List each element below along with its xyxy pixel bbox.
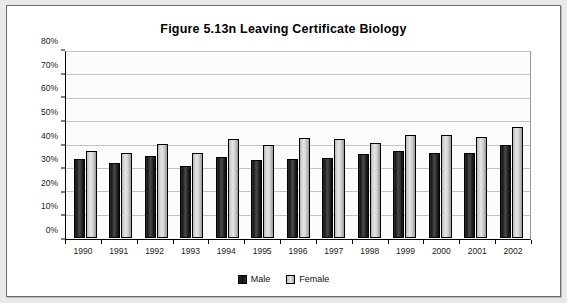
bars-layer (68, 53, 530, 238)
bar-male-1990 (74, 159, 85, 237)
y-axis-tick-mark (61, 97, 65, 98)
bar-female-1991 (121, 153, 132, 237)
x-axis-tick-mark (173, 240, 174, 244)
bar-male-1997 (322, 158, 333, 238)
x-axis-label-2000: 2000 (423, 246, 459, 256)
x-axis-tick-mark (101, 240, 102, 244)
bar-female-1999 (405, 135, 416, 238)
y-axis-tick-label: 30% (41, 154, 58, 164)
bar-male-1993 (180, 166, 191, 237)
x-axis-tick-mark (388, 240, 389, 244)
x-axis-label-1991: 1991 (101, 246, 137, 256)
bar-male-1999 (393, 151, 404, 237)
legend-swatch-female-icon (286, 275, 295, 284)
y-axis-tick-label: 50% (41, 107, 58, 117)
bar-female-1998 (370, 143, 381, 238)
y-axis-tick-label: 70% (41, 60, 58, 70)
x-axis-tick-mark (280, 240, 281, 244)
x-axis-tick-mark (208, 240, 209, 244)
x-axis-label-2002: 2002 (495, 246, 531, 256)
y-axis-tick-label: 0% (46, 225, 58, 235)
bar-female-1993 (192, 153, 203, 237)
bar-female-2002 (512, 127, 523, 238)
x-axis-tick-mark (423, 240, 424, 244)
x-axis-tick-mark (65, 240, 66, 244)
y-axis-tick-mark (61, 50, 65, 51)
bar-group-2002 (494, 53, 530, 238)
y-axis-tick-mark (61, 73, 65, 74)
bar-group-1993 (174, 53, 210, 238)
bar-female-1995 (263, 145, 274, 237)
plot-wrapper: 0%10%20%30%40%50%60%70%80% 1990199119921… (65, 51, 531, 240)
bar-male-2002 (500, 145, 511, 237)
bar-male-1996 (287, 159, 298, 237)
y-axis-tick-mark (61, 168, 65, 169)
x-axis-label-1996: 1996 (280, 246, 316, 256)
y-axis-tick-label: 60% (41, 83, 58, 93)
bar-male-1991 (109, 163, 120, 238)
bar-group-1997 (316, 53, 352, 238)
legend-swatch-male-icon (238, 275, 247, 284)
legend-label-female: Female (299, 274, 329, 284)
x-axis-tick-mark (459, 240, 460, 244)
bar-female-1992 (157, 144, 168, 237)
bar-female-2001 (476, 137, 487, 237)
bar-female-2000 (441, 135, 452, 238)
x-axis-label-1994: 1994 (208, 246, 244, 256)
x-axis-label-1995: 1995 (244, 246, 280, 256)
y-axis-tick-label: 10% (41, 201, 58, 211)
legend-label-male: Male (251, 274, 271, 284)
plot-area (65, 51, 531, 240)
y-axis-tick-label: 20% (41, 178, 58, 188)
bar-female-1994 (228, 139, 239, 237)
x-axis-tick-mark (352, 240, 353, 244)
x-axis-tick-mark (244, 240, 245, 244)
bar-male-1994 (216, 157, 227, 238)
bar-male-1995 (251, 160, 262, 237)
bar-group-1992 (139, 53, 175, 238)
x-axis-label-1990: 1990 (65, 246, 101, 256)
bar-group-1995 (245, 53, 281, 238)
x-axis-labels: 1990199119921993199419951996199719981999… (65, 246, 531, 256)
bar-group-1994 (210, 53, 246, 238)
bar-group-1999 (387, 53, 423, 238)
legend-item-male: Male (238, 274, 271, 284)
y-axis-tick-mark (61, 120, 65, 121)
bar-group-1991 (103, 53, 139, 238)
gridline (66, 51, 530, 52)
y-axis-tick-label: 80% (41, 36, 58, 46)
bar-female-1997 (334, 139, 345, 237)
legend-item-female: Female (286, 274, 329, 284)
x-axis-label-1999: 1999 (388, 246, 424, 256)
bar-group-2000 (423, 53, 459, 238)
bar-male-1992 (145, 156, 156, 238)
x-axis-tick-mark (495, 240, 496, 244)
bar-female-1996 (299, 138, 310, 237)
x-axis-label-2001: 2001 (459, 246, 495, 256)
y-axis-tick-mark (61, 215, 65, 216)
x-axis-tick-mark (531, 240, 532, 244)
bar-group-1998 (352, 53, 388, 238)
bar-group-1990 (68, 53, 104, 238)
figure-panel: Figure 5.13n Leaving Certificate Biology… (6, 5, 561, 297)
bar-female-1990 (86, 151, 97, 237)
bar-male-1998 (358, 154, 369, 237)
y-axis-tick-mark (61, 144, 65, 145)
x-axis-label-1993: 1993 (173, 246, 209, 256)
x-axis-tick-mark (316, 240, 317, 244)
x-axis-label-1992: 1992 (137, 246, 173, 256)
x-axis-label-1997: 1997 (316, 246, 352, 256)
bar-male-2000 (429, 153, 440, 237)
chart-legend: MaleFemale (7, 274, 560, 284)
y-axis-tick-mark (61, 191, 65, 192)
bar-male-2001 (464, 153, 475, 237)
x-axis-tick-mark (137, 240, 138, 244)
y-axis-tick-label: 40% (41, 131, 58, 141)
bar-group-1996 (281, 53, 317, 238)
chart-title: Figure 5.13n Leaving Certificate Biology (7, 22, 560, 36)
bar-group-2001 (458, 53, 494, 238)
x-axis-label-1998: 1998 (352, 246, 388, 256)
figure-container: Figure 5.13n Leaving Certificate Biology… (0, 0, 567, 303)
